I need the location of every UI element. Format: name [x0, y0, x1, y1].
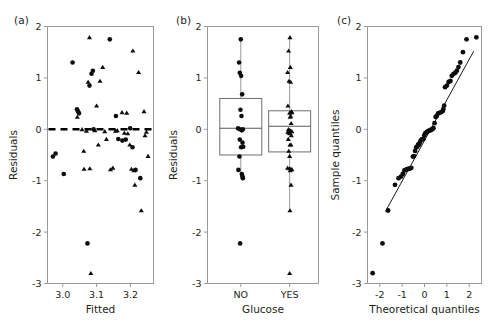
boxes: NOYES — [220, 35, 311, 300]
data-point — [61, 172, 66, 177]
data-point — [100, 65, 105, 69]
x-axis-title: Fitted — [86, 303, 116, 315]
data-point — [70, 60, 75, 65]
y-tick-label: 0 — [35, 124, 41, 135]
data-points — [51, 35, 151, 275]
y-tick-label: 0 — [355, 124, 361, 135]
y-tick-label: 0 — [195, 124, 201, 135]
data-point — [142, 133, 147, 137]
data-point — [458, 60, 463, 65]
data-point — [87, 35, 92, 39]
data-point — [239, 114, 244, 119]
data-point — [138, 176, 143, 181]
data-point — [287, 154, 292, 158]
y-tick-label: 1 — [195, 72, 201, 83]
data-point — [91, 68, 96, 73]
data-point — [238, 107, 243, 112]
data-point — [237, 60, 242, 65]
y-tick-label: 1 — [35, 72, 41, 83]
data-point — [110, 166, 115, 170]
panel-a-label: (a) — [14, 14, 29, 26]
data-point — [456, 65, 461, 70]
x-tick-label: 3.1 — [89, 289, 104, 300]
panel-c-plot: 210-1-2-3-2-1012Theoretical quantilesSam… — [326, 0, 491, 328]
y-axis-title: Residuals — [7, 130, 19, 180]
y-axis-title: Residuals — [167, 130, 179, 180]
y-tick-label: 2 — [355, 21, 361, 32]
data-point — [239, 74, 244, 79]
y-tick-label: -2 — [192, 227, 201, 238]
data-point — [80, 127, 85, 131]
data-point — [141, 109, 146, 113]
panel-a-plot: 210-1-2-33.03.13.2FittedResiduals — [0, 0, 163, 328]
y-tick-label: -1 — [352, 175, 361, 186]
data-point — [139, 208, 144, 212]
panel-b-plot: 210-1-2-3NOYESGlucoseResiduals — [163, 0, 326, 328]
data-point — [81, 149, 86, 153]
y-axis-ticks: 210-1-2-3 — [32, 21, 47, 289]
data-point — [238, 241, 243, 246]
y-axis-title: Sample quantiles — [329, 110, 341, 201]
data-point — [286, 48, 291, 52]
data-point — [448, 79, 453, 84]
data-point — [97, 79, 102, 83]
data-point — [386, 208, 391, 213]
y-tick-label: -1 — [32, 175, 41, 186]
data-point — [125, 131, 130, 135]
x-axis-ticks: -2-1012 — [375, 284, 472, 301]
data-point — [241, 176, 246, 181]
data-point — [119, 110, 124, 114]
data-point — [132, 183, 137, 187]
x-category-label: YES — [280, 289, 299, 300]
data-point — [240, 140, 245, 145]
y-axis-ticks: 210-1-2-3 — [352, 21, 367, 289]
data-point — [82, 167, 87, 171]
data-point — [409, 165, 414, 170]
panel-c-label: (c) — [337, 14, 351, 26]
panel-a: (a) 210-1-2-33.03.13.2FittedResiduals — [0, 0, 163, 328]
data-point — [116, 137, 121, 142]
data-point — [88, 271, 93, 275]
y-tick-label: -3 — [192, 278, 201, 289]
data-point — [442, 103, 447, 108]
y-tick-label: 2 — [35, 21, 41, 32]
data-point — [127, 142, 132, 146]
data-point — [464, 37, 469, 42]
x-axis-title: Theoretical quantiles — [368, 303, 479, 315]
data-point — [241, 127, 246, 132]
data-point — [123, 137, 128, 142]
x-tick-label: 3.0 — [55, 289, 70, 300]
data-point — [53, 151, 58, 156]
y-tick-label: -1 — [192, 175, 201, 186]
x-category-label: NO — [234, 289, 249, 300]
panel-b: (b) 210-1-2-3NOYESGlucoseResiduals — [163, 0, 326, 328]
data-point — [136, 70, 141, 74]
data-point — [287, 271, 292, 275]
y-tick-label: -3 — [32, 278, 41, 289]
plot-frame — [48, 27, 154, 284]
x-tick-label: 3.2 — [123, 289, 138, 300]
data-point — [108, 37, 113, 42]
data-point — [393, 182, 398, 187]
data-point — [240, 92, 245, 97]
data-point — [461, 50, 466, 55]
x-tick-label: 0 — [421, 289, 427, 300]
data-point — [287, 35, 292, 39]
data-point — [412, 154, 417, 159]
y-tick-label: -3 — [352, 278, 361, 289]
data-point — [104, 137, 109, 141]
data-point — [130, 48, 135, 52]
data-point — [237, 154, 242, 159]
data-point — [236, 168, 241, 173]
data-point — [94, 103, 99, 107]
x-tick-label: 1 — [444, 289, 450, 300]
data-point — [128, 126, 133, 131]
y-axis-ticks: 210-1-2-3 — [192, 21, 207, 289]
y-tick-label: 2 — [195, 21, 201, 32]
y-tick-label: -2 — [352, 227, 361, 238]
data-point — [239, 37, 244, 42]
data-point — [288, 65, 293, 69]
data-point — [241, 144, 246, 149]
data-point — [370, 271, 375, 276]
data-point — [124, 111, 129, 115]
